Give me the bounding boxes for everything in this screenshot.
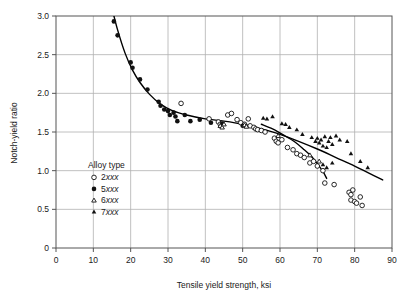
data-point-2xxx [280,137,285,142]
legend-item-label: 6xxx [101,195,119,205]
data-point-2xxx [291,147,296,152]
x-tick-label: 0 [54,255,59,265]
data-point-2xxx [302,155,307,160]
legend-item-label: 7xxx [101,207,119,217]
legend-item-2xxx[interactable] [92,175,97,180]
data-point-5xxx [112,19,117,24]
y-tick-label: 0 [44,243,49,253]
data-point-5xxx [183,113,188,118]
data-point-2xxx [332,182,337,187]
x-tick-label: 10 [89,255,99,265]
chart-container: 0102030405060708090 00.51.01.52.02.53.0 … [0,0,415,299]
y-tick-label: 1.5 [37,127,49,137]
data-point-2xxx [246,117,251,122]
data-point-2xxx [360,203,365,208]
x-tick-label: 40 [201,255,211,265]
data-point-5xxx [145,87,150,92]
legend-item-label: 5xxx [101,184,119,194]
x-tick-label: 50 [238,255,248,265]
data-point-2xxx [263,130,268,135]
data-point-2xxx [311,159,316,164]
data-point-5xxx [130,66,135,71]
y-tick-label: 2.0 [37,88,49,98]
x-tick-label: 20 [126,255,136,265]
x-tick-label: 60 [275,255,285,265]
x-tick-label: 70 [313,255,323,265]
data-point-2xxx [358,195,363,200]
data-point-2xxx [179,101,184,106]
data-point-2xxx [349,192,354,197]
data-point-5xxx [115,33,120,38]
y-tick-label: 0.5 [37,204,49,214]
data-point-2xxx [315,164,320,169]
y-tick-label: 3.0 [37,11,49,21]
data-point-2xxx [351,188,356,193]
data-point-5xxx [209,120,214,125]
data-point-5xxx [197,117,202,122]
legend-item-5xxx[interactable] [92,187,97,192]
data-point-5xxx [158,103,163,108]
y-tick-label: 2.5 [37,50,49,60]
legend-marker-filled-circle-icon [92,187,97,192]
data-point-2xxx [354,201,359,206]
notch-yield-ratio-scatter-chart: 0102030405060708090 00.51.01.52.02.53.0 … [0,0,415,299]
x-tick-label: 80 [350,255,360,265]
x-tick-label: 30 [163,255,173,265]
data-point-2xxx [323,181,328,186]
x-tick-label: 90 [387,255,397,265]
data-point-5xxx [188,119,193,124]
data-point-2xxx [285,145,290,150]
data-point-5xxx [175,119,180,124]
data-point-5xxx [128,60,133,65]
data-point-5xxx [138,77,143,82]
legend-title: Alloy type [88,160,125,170]
data-point-2xxx [229,111,234,116]
data-point-5xxx [173,114,178,119]
legend-marker-open-circle-icon [92,175,97,180]
legend-item-label: 2xxx [101,172,119,182]
y-axis-title: Notch-yield ratio [9,102,19,164]
x-axis-title: Tensile yield strength, ksi [177,280,272,290]
y-tick-label: 1.0 [37,166,49,176]
